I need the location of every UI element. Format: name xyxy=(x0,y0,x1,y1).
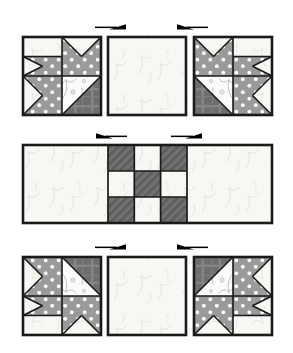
nine-patch-cell-2-1 xyxy=(134,197,160,223)
strip-left-patch xyxy=(23,145,108,223)
nine-patch-cell-2-2 xyxy=(161,197,187,223)
nine-patch-cell-0-2 xyxy=(161,145,187,171)
nine-patch-cell-0-1 xyxy=(134,145,160,171)
star-unit-bottom-left[interactable] xyxy=(23,257,101,335)
star-unit-bottom-right[interactable] xyxy=(194,257,272,335)
nine-patch-cell-1-0 xyxy=(108,171,134,197)
star-unit-top-right[interactable] xyxy=(194,37,272,115)
strip-right-patch xyxy=(187,145,272,223)
nine-patch-cell-1-1 xyxy=(134,171,160,197)
nine-patch-cell-1-2 xyxy=(161,171,187,197)
diagram-canvas: Quilt Block Assembly Diagram xyxy=(0,0,293,353)
star-unit-top-left[interactable] xyxy=(23,37,101,115)
center-rectangle-strip[interactable] xyxy=(23,145,272,223)
nine-patch-cell-0-0 xyxy=(108,145,134,171)
bottom-row xyxy=(23,257,272,335)
quilt-assembly-diagram: Quilt Block Assembly Diagram xyxy=(0,0,293,353)
nine-patch-cell-2-0 xyxy=(108,197,134,223)
top-row xyxy=(23,37,272,115)
plain-square-top-center[interactable] xyxy=(108,37,186,115)
nine-patch[interactable] xyxy=(108,145,187,223)
plain-square-bottom-center[interactable] xyxy=(108,257,186,335)
